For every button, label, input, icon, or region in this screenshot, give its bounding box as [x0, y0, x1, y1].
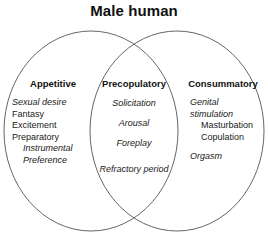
list-item: Masturbation	[190, 120, 266, 132]
region-heading-appetitive: Appetitive	[12, 78, 90, 89]
list-item: Arousal	[92, 118, 176, 129]
venn-region-precopulatory: Precopulatory Solicitation Arousal Forep…	[92, 78, 176, 175]
region-items-consummatory: Genital stimulation Masturbation Copulat…	[180, 97, 266, 163]
list-item: Excitement	[12, 120, 90, 132]
region-heading-consummatory: Consummatory	[180, 78, 266, 89]
list-item: Orgasm	[190, 151, 266, 163]
list-item: Solicitation	[92, 98, 176, 109]
venn-region-consummatory: Consummatory Genital stimulation Masturb…	[180, 78, 266, 163]
list-item: Fantasy	[12, 109, 90, 121]
list-item: Preparatory	[12, 132, 90, 144]
list-item: Instrumental	[12, 143, 90, 155]
list-item: Copulation	[190, 132, 266, 144]
region-heading-precopulatory: Precopulatory	[92, 78, 176, 89]
venn-region-appetitive: Appetitive Sexual desire Fantasy Excitem…	[12, 78, 90, 166]
list-item: Refractory period	[92, 164, 176, 175]
region-items-precopulatory: Solicitation Arousal Foreplay Refractory…	[92, 98, 176, 175]
region-items-appetitive: Sexual desire Fantasy Excitement Prepara…	[12, 97, 90, 166]
list-item: Sexual desire	[12, 97, 90, 109]
list-item: Genital stimulation	[190, 97, 252, 120]
venn-diagram-figure: Male human Appetitive Sexual desire Fant…	[0, 0, 268, 235]
list-item: Foreplay	[92, 138, 176, 149]
list-item: Preference	[12, 155, 90, 167]
